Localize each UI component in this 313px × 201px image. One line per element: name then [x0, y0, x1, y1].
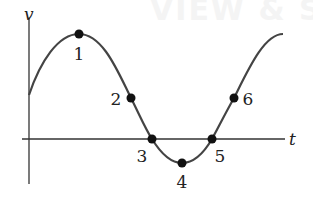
point-4-label: 4 — [177, 172, 188, 192]
point-2-marker — [127, 94, 136, 103]
point-1-label: 1 — [74, 44, 85, 64]
diagram-canvas: v t 123456 — [0, 0, 313, 201]
v-axis-label: v — [24, 4, 34, 24]
point-6-marker — [230, 94, 239, 103]
point-5-label: 5 — [215, 146, 226, 166]
point-6-label: 6 — [243, 89, 254, 109]
velocity-time-diagram: VIEW & SOL v t 123456 — [0, 0, 313, 201]
point-2-label: 2 — [111, 89, 122, 109]
point-3-label: 3 — [137, 146, 148, 166]
point-1-marker — [75, 30, 84, 39]
point-3-marker — [148, 135, 157, 144]
point-4-marker — [178, 159, 187, 168]
t-axis-label: t — [289, 129, 296, 149]
point-5-marker — [208, 135, 217, 144]
